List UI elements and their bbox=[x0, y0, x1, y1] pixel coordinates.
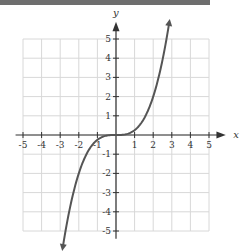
x-tick-label: -5 bbox=[19, 140, 28, 150]
x-axis-label: x bbox=[233, 129, 239, 140]
y-axis-label: y bbox=[112, 7, 119, 18]
y-tick-label: -3 bbox=[102, 188, 111, 198]
y-tick-label: 5 bbox=[105, 34, 111, 44]
x-tick-label: 4 bbox=[188, 140, 194, 150]
y-tick-label: 2 bbox=[105, 92, 111, 102]
axes bbox=[16, 22, 226, 239]
x-tick-label: -3 bbox=[56, 140, 65, 150]
y-tick-label: -1 bbox=[102, 149, 111, 159]
y-tick-label: -4 bbox=[102, 207, 111, 217]
y-tick-label: 3 bbox=[105, 72, 111, 82]
x-tick-label: 5 bbox=[206, 140, 212, 150]
x-tick-label: 2 bbox=[150, 140, 156, 150]
y-tick-label: -2 bbox=[102, 168, 111, 178]
y-tick-label: 1 bbox=[105, 111, 111, 121]
x-tick-label: 3 bbox=[169, 140, 175, 150]
y-tick-label: 4 bbox=[105, 53, 111, 63]
cubic-function-graph: -5-4-3-2-11234554321-1-2-3-4-5 x y bbox=[0, 0, 245, 252]
y-tick-label: -5 bbox=[102, 226, 111, 236]
x-tick-label: -2 bbox=[74, 140, 83, 150]
x-tick-label: -4 bbox=[37, 140, 46, 150]
x-tick-label: 1 bbox=[132, 140, 138, 150]
